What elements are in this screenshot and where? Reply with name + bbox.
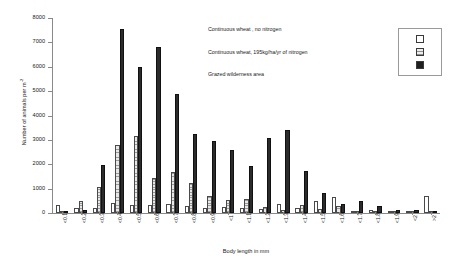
- legend-swatch-grazed: [416, 61, 424, 69]
- y-axis-title-text: Number of animals per m: [21, 82, 27, 145]
- y-axis-title: Number of animals per m-2: [19, 37, 27, 187]
- bar-chart: Number of animals per m-2 80007000600050…: [0, 0, 458, 268]
- x-axis-tick-label-cell: <0.1: [53, 216, 71, 244]
- x-axis-tick-label: <0.9: [210, 213, 216, 223]
- bar-group: [200, 18, 218, 213]
- bar: [138, 67, 142, 213]
- x-axis-tick-label-cell: >2: [421, 216, 439, 244]
- bar-group: [219, 18, 237, 213]
- x-axis-tick-label-cell: <0.6: [145, 216, 163, 244]
- bar-group: [90, 18, 108, 213]
- x-axis-tick-label: <0.6: [154, 213, 160, 223]
- x-axis-tick-label: <1.3: [283, 213, 289, 223]
- x-axis-tick-label: <1.5: [320, 213, 326, 223]
- x-axis-tick-label-cell: <1.2: [256, 216, 274, 244]
- x-axis-tick-label: <1.8: [375, 213, 381, 223]
- bar-group: [145, 18, 163, 213]
- x-axis-tick-label: <1: [228, 215, 234, 221]
- x-axis-tick-label-cell: <0.4: [108, 216, 126, 244]
- bar: [120, 29, 124, 213]
- y-axis-title-exponent: -2: [19, 79, 24, 83]
- x-axis-tick-label: >2: [431, 215, 437, 221]
- y-axis-tick-label: 2000: [33, 160, 45, 166]
- x-axis-tick-label: <1.7: [357, 213, 363, 223]
- legend-swatch-with-nitrogen: [416, 48, 424, 56]
- bar-group: [53, 18, 71, 213]
- bar-group: [164, 18, 182, 213]
- bar: [341, 204, 345, 213]
- x-axis-tick-label: <0.4: [117, 213, 123, 223]
- x-axis-tick-label-cell: <1.6: [329, 216, 347, 244]
- y-axis-tick-label: 7000: [33, 38, 45, 44]
- legend-label-with-nitrogen: Continuous wheat, 195kg/ha/yr of nitroge…: [208, 49, 308, 55]
- y-axis-tick: 0: [48, 213, 53, 214]
- legend-label-no-nitrogen: Continuous wheat , no nitrogen: [208, 26, 281, 32]
- x-axis-tick-label: <0.8: [191, 213, 197, 223]
- bar: [193, 134, 197, 213]
- bar-group: [182, 18, 200, 213]
- bar-group: [108, 18, 126, 213]
- bars-layer: [53, 18, 440, 213]
- y-axis-tick-label: 8000: [33, 14, 45, 20]
- bar: [230, 150, 234, 213]
- bar: [285, 130, 289, 213]
- y-axis-tick-label: 5000: [33, 87, 45, 93]
- x-axis-tick-label-cell: <2: [403, 216, 421, 244]
- y-axis-tick-label: 0: [42, 209, 45, 215]
- bar-group: [292, 18, 310, 213]
- y-axis-tick-label: 3000: [33, 136, 45, 142]
- x-axis-tick-label-cell: <1.4: [292, 216, 310, 244]
- bar: [212, 141, 216, 213]
- x-axis-tick-label: <1.9: [394, 213, 400, 223]
- bar-group: [256, 18, 274, 213]
- x-axis-tick-label-cell: <0.3: [90, 216, 108, 244]
- legend-label-grazed: Grazed wilderness area: [208, 71, 264, 77]
- x-axis-tick-label-cell: <1.1: [237, 216, 255, 244]
- bar: [414, 210, 418, 213]
- x-axis-tick-label-cell: <1.5: [311, 216, 329, 244]
- y-axis-tick-label: 4000: [33, 112, 45, 118]
- x-axis-tick-label-cell: <0.8: [182, 216, 200, 244]
- x-axis-tick-label: <1.4: [302, 213, 308, 223]
- bar: [175, 94, 179, 213]
- x-axis-tick-label: <0.5: [136, 213, 142, 223]
- x-axis-tick-label: <0.3: [99, 213, 105, 223]
- legend-key-box: [398, 28, 442, 76]
- x-axis-tick-label-cell: <1.9: [385, 216, 403, 244]
- bar-group: [127, 18, 145, 213]
- bar: [359, 201, 363, 213]
- bar-group: [237, 18, 255, 213]
- x-axis-tick-label-cell: <1.3: [274, 216, 292, 244]
- bar-group: [366, 18, 384, 213]
- bar-group: [71, 18, 89, 213]
- legend-swatch-no-nitrogen: [416, 35, 424, 43]
- x-axis-tick-label-cell: <0.9: [200, 216, 218, 244]
- x-axis-tick-label: <1.1: [246, 213, 252, 223]
- x-axis-tick-label-cell: <1: [219, 216, 237, 244]
- bar: [322, 193, 326, 213]
- bar: [304, 171, 308, 213]
- y-axis-tick-label: 6000: [33, 63, 45, 69]
- bar: [249, 166, 253, 213]
- x-axis-tick-label: <0.1: [62, 213, 68, 223]
- bar-group: [274, 18, 292, 213]
- x-axis-tick-label-cell: <0.2: [71, 216, 89, 244]
- bar: [156, 47, 160, 213]
- plot-area: 800070006000500040003000200010000: [52, 18, 440, 214]
- x-axis-tick-labels: <0.1<0.2<0.3<0.4<0.5<0.6<0.7<0.8<0.9<1<1…: [53, 216, 440, 244]
- x-axis-tick-label: <2: [412, 215, 418, 221]
- bar-group: [329, 18, 347, 213]
- x-axis-tick-label: <0.2: [81, 213, 87, 223]
- x-axis-tick-label-cell: <1.8: [366, 216, 384, 244]
- x-axis-tick-label-cell: <0.5: [127, 216, 145, 244]
- x-axis-title: Body length in mm: [52, 248, 440, 254]
- x-axis-tick-label-cell: <1.7: [348, 216, 366, 244]
- bar-group: [348, 18, 366, 213]
- x-axis-tick-label: <1.2: [265, 213, 271, 223]
- bar: [267, 138, 271, 213]
- x-axis-tick-label-cell: <0.7: [164, 216, 182, 244]
- bar: [433, 211, 437, 213]
- bar-group: [311, 18, 329, 213]
- bar: [101, 165, 105, 213]
- y-axis-tick-label: 1000: [33, 185, 45, 191]
